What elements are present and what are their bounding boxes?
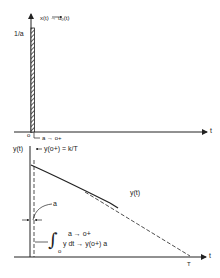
width-label-leader [33,204,52,220]
integral-expression: y dt → y(o+) a [63,240,107,248]
integral-lower-limit: o [58,247,61,255]
initial-value-label: y(o+) = k/T [44,145,78,153]
pulse-end-pointer [34,133,40,138]
bottom-y-label: y(t) [13,145,23,153]
top-x-label: t [210,127,212,135]
pulse-end-label: a → o+ [42,134,62,142]
top-origin-label: o [27,131,30,139]
bottom-x-label: t [209,252,211,260]
x-axis-end-label: T [187,260,191,268]
limit-label: a → o+ [68,230,91,238]
bottom-plot [14,146,206,257]
integral-sign: ∫ [48,231,57,249]
width-label: a [53,200,57,208]
top-y-label: 1/a [14,30,24,38]
impulse-pulse [31,28,35,132]
diagram-canvas [0,0,220,278]
response-curve-tail [110,203,118,208]
top-plot [14,14,207,138]
curve-label: y(t) [130,189,140,197]
response-curve [31,165,110,203]
signal-label: x(t) → u₀(t) [40,14,70,22]
